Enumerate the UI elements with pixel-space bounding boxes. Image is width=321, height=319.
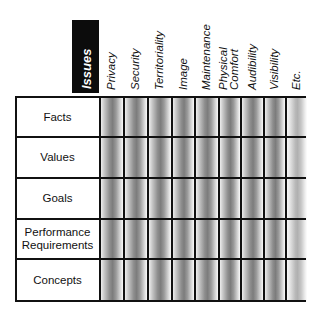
issues-header-block: Issues [72,20,99,93]
column-header-label: Physical Comfort [218,38,240,90]
grid-line-vertical [147,96,149,302]
row-header-label: Performance Requirements [16,220,99,258]
shaded-column-8 [264,97,285,301]
shaded-column-4 [172,97,194,301]
row-header-label: Values [16,138,99,177]
column-header-label: Etc. [291,70,302,90]
shaded-column-3 [148,97,171,301]
grid-line-vertical [99,96,101,302]
grid-line-vertical [171,96,173,302]
column-header-label: Maintenance [201,24,212,90]
column-header: Security [123,0,147,92]
grid-line-vertical [263,96,265,302]
shaded-column-7 [241,97,263,301]
row-header-label: Concepts [16,260,99,300]
column-header-label: Visibility [269,49,280,90]
column-header: Maintenance [194,0,218,92]
column-header-label: Territoriality [154,31,165,90]
shaded-column-9 [286,97,307,301]
row-header-label: Facts [16,98,99,136]
column-header: Physical Comfort [218,0,240,92]
shaded-column-2 [124,97,147,301]
grid-line-vertical [194,96,196,302]
grid-line-vertical [285,96,287,302]
grid-line-vertical [218,96,220,302]
column-header: Image [171,0,194,92]
shaded-column-1 [100,97,123,301]
column-header-label: Privacy [106,52,117,90]
shaded-column-6 [219,97,240,301]
issues-matrix-diagram: Issues PrivacySecurityTerritorialityImag… [0,0,321,319]
column-header: Privacy [99,0,123,92]
column-header-label: Image [177,58,188,90]
row-header-label: Goals [16,179,99,218]
issues-header-label: Issues [78,49,93,89]
column-header: Visibility [263,0,285,92]
column-header: Territoriality [147,0,171,92]
grid-line-vertical [15,96,17,302]
column-header: Audibility [240,0,263,92]
column-header: Etc. [285,0,307,92]
grid-line-vertical [123,96,125,302]
shaded-column-5 [195,97,218,301]
column-header-label: Security [130,48,141,90]
column-header-label: Audibility [246,44,257,90]
grid-line-vertical [240,96,242,302]
